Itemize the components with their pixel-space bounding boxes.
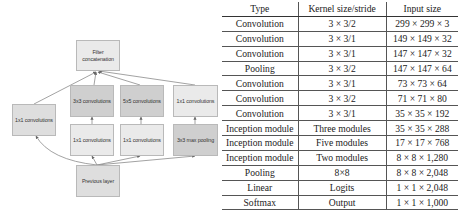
- cell-kernel: 3 × 3/2: [298, 61, 386, 76]
- table-row: SoftmaxOutput1 × 1 × 1,000: [222, 195, 458, 210]
- conv1x1-mid-b-node: 1x1 convolutions: [120, 124, 164, 156]
- cell-kernel: Logits: [298, 180, 386, 195]
- column-header-type: Type: [222, 2, 298, 16]
- node-label: 1x1 convolutions: [177, 98, 215, 105]
- cell-type: Convolution: [222, 91, 298, 106]
- table-row: Inception moduleTwo modules8 × 8 × 1,280: [222, 150, 458, 165]
- node-label: 1x1 convolutions: [123, 137, 161, 144]
- cell-input-size: 1 × 1 × 2,048: [386, 180, 458, 195]
- cell-type: Convolution: [222, 31, 298, 46]
- cell-type: Linear: [222, 180, 298, 195]
- previous-layer-node: Previous layer: [76, 165, 120, 197]
- node-label: 1x1 convolutions: [73, 137, 111, 144]
- cell-kernel: Two modules: [298, 150, 386, 165]
- cell-input-size: 299 × 299 × 3: [386, 16, 458, 31]
- node-label: 5x5 convolutions: [123, 98, 161, 105]
- maxpool3x3-node: 3x3 max pooling: [173, 124, 218, 156]
- cell-kernel: 3 × 3/1: [298, 46, 386, 61]
- cell-input-size: 73 × 73 × 64: [386, 76, 458, 91]
- cell-kernel: Output: [298, 195, 386, 210]
- table-row: Convolution3 × 3/271 × 71 × 80: [222, 91, 458, 106]
- column-header-kernel: Kernel size/stride: [298, 2, 386, 16]
- table-row: Inception moduleFive modules17 × 17 × 76…: [222, 136, 458, 151]
- cell-type: Convolution: [222, 16, 298, 31]
- cell-input-size: 147 × 147 × 32: [386, 46, 458, 61]
- conv1x1-top-right-node: 1x1 convolutions: [173, 85, 218, 117]
- cell-type: Pooling: [222, 61, 298, 76]
- cell-type: Convolution: [222, 76, 298, 91]
- inception-module-diagram: Filter concatenation 1x1 convolutions 3x…: [0, 0, 220, 215]
- column-header-input-size: Input size: [386, 2, 458, 16]
- cell-kernel: 3 × 3/2: [298, 91, 386, 106]
- cell-input-size: 17 × 17 × 768: [386, 136, 458, 151]
- cell-type: Inception module: [222, 121, 298, 136]
- cell-type: Softmax: [222, 195, 298, 210]
- cell-kernel: 3 × 3/1: [298, 106, 386, 121]
- cell-input-size: 71 × 71 × 80: [386, 91, 458, 106]
- cell-input-size: 147 × 147 × 64: [386, 61, 458, 76]
- table-row: Pooling3 × 3/2147 × 147 × 64: [222, 61, 458, 76]
- cell-type: Pooling: [222, 165, 298, 180]
- table-row: LinearLogits1 × 1 × 2,048: [222, 180, 458, 195]
- conv5x5-node: 5x5 convolutions: [120, 85, 164, 117]
- table-row: Pooling8×88 × 8 × 2,048: [222, 165, 458, 180]
- table-row: Convolution3 × 3/1149 × 149 × 32: [222, 31, 458, 46]
- node-label: 1x1 convolutions: [15, 117, 53, 124]
- cell-input-size: 8 × 8 × 2,048: [386, 165, 458, 180]
- table-row: Convolution3 × 3/2299 × 299 × 3: [222, 16, 458, 31]
- cell-type: Inception module: [222, 150, 298, 165]
- filter-concatenation-node: Filter concatenation: [76, 40, 120, 71]
- conv1x1-mid-a-node: 1x1 convolutions: [70, 124, 114, 156]
- cell-type: Convolution: [222, 106, 298, 121]
- conv3x3-node: 3x3 convolutions: [70, 85, 114, 117]
- cell-kernel: 3 × 3/2: [298, 16, 386, 31]
- architecture-table: Type Kernel size/stride Input size Convo…: [222, 2, 458, 210]
- node-label: 3x3 max pooling: [177, 137, 214, 144]
- cell-kernel: Three modules: [298, 121, 386, 136]
- cell-type: Convolution: [222, 46, 298, 61]
- cell-input-size: 35 × 35 × 192: [386, 106, 458, 121]
- cell-type: Inception module: [222, 136, 298, 151]
- node-label: Filter concatenation: [77, 49, 119, 62]
- table-row: Convolution3 × 3/1147 × 147 × 32: [222, 46, 458, 61]
- cell-input-size: 8 × 8 × 1,280: [386, 150, 458, 165]
- table-row: Convolution3 × 3/173 × 73 × 64: [222, 76, 458, 91]
- cell-kernel: 8×8: [298, 165, 386, 180]
- cell-kernel: 3 × 3/1: [298, 76, 386, 91]
- cell-input-size: 35 × 35 × 288: [386, 121, 458, 136]
- cell-input-size: 149 × 149 × 32: [386, 31, 458, 46]
- cell-input-size: 1 × 1 × 1,000: [386, 195, 458, 210]
- cell-kernel: 3 × 3/1: [298, 31, 386, 46]
- node-label: Previous layer: [82, 178, 114, 185]
- table-row: Inception moduleThree modules35 × 35 × 2…: [222, 121, 458, 136]
- table-row: Convolution3 × 3/135 × 35 × 192: [222, 106, 458, 121]
- cell-kernel: Five modules: [298, 136, 386, 151]
- table-header-row: Type Kernel size/stride Input size: [222, 2, 458, 16]
- conv1x1-left-node: 1x1 convolutions: [12, 104, 56, 136]
- node-label: 3x3 convolutions: [73, 98, 111, 105]
